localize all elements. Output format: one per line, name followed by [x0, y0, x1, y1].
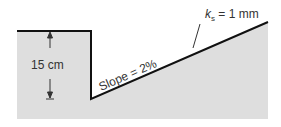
channel-diagram: 15 cm Slope = 2% ks = 1 mm [0, 0, 281, 127]
roughness-leader-line [193, 24, 200, 48]
roughness-value: = 1 mm [215, 7, 259, 21]
depth-label: 15 cm [31, 58, 64, 72]
roughness-label: ks = 1 mm [205, 7, 259, 23]
